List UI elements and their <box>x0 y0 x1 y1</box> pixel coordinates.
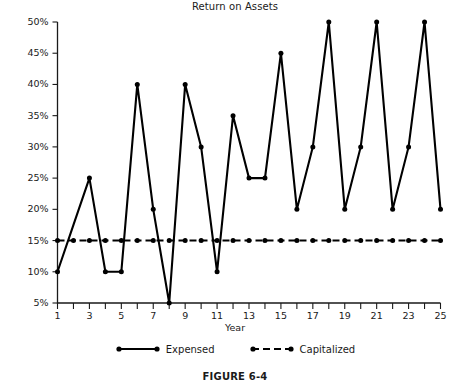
legend-swatch-solid-line <box>115 343 161 355</box>
y-axis-tick-label: 10% <box>0 266 49 277</box>
x-axis-tick-label: 7 <box>139 310 167 321</box>
data-point-marker <box>438 207 443 212</box>
figure-caption: FIGURE 6-4 <box>0 371 470 382</box>
data-point-marker <box>135 82 140 87</box>
data-point-marker <box>55 269 60 274</box>
data-point-marker <box>167 238 172 243</box>
x-axis-tick-label: 23 <box>395 310 423 321</box>
data-point-marker <box>262 176 267 181</box>
x-axis-tick-label: 19 <box>331 310 359 321</box>
x-axis-tick-label: 13 <box>235 310 263 321</box>
data-point-marker <box>390 207 395 212</box>
data-point-marker <box>103 238 108 243</box>
data-point-marker <box>215 238 220 243</box>
data-point-marker <box>374 20 379 25</box>
y-axis-tick-label: 35% <box>0 110 49 121</box>
data-point-marker <box>406 238 411 243</box>
figure-container: Return on Assets 5%10%15%20%25%30%35%40%… <box>0 0 470 392</box>
data-point-marker <box>422 238 427 243</box>
chart-legend: Expensed Capitalized <box>0 343 470 355</box>
data-point-marker <box>199 238 204 243</box>
data-point-marker <box>294 207 299 212</box>
x-axis-tick-label: 15 <box>267 310 295 321</box>
x-axis-tick-label: 5 <box>107 310 135 321</box>
data-point-marker <box>135 238 140 243</box>
data-point-marker <box>358 238 363 243</box>
data-point-marker <box>55 238 60 243</box>
data-point-marker <box>183 238 188 243</box>
data-point-marker <box>342 238 347 243</box>
data-point-marker <box>326 20 331 25</box>
y-axis-tick-label: 15% <box>0 235 49 246</box>
data-point-marker <box>119 269 124 274</box>
data-point-marker <box>358 144 363 149</box>
data-point-marker <box>278 51 283 56</box>
x-axis-tick-label: 17 <box>299 310 327 321</box>
data-point-marker <box>199 144 204 149</box>
data-point-marker <box>167 301 172 306</box>
data-point-marker <box>310 238 315 243</box>
data-point-marker <box>438 238 443 243</box>
data-point-marker <box>215 269 220 274</box>
data-point-marker <box>231 238 236 243</box>
legend-item-expensed: Expensed <box>115 343 215 355</box>
data-point-marker <box>247 176 252 181</box>
data-point-marker <box>326 238 331 243</box>
x-axis-tick-label: 1 <box>44 310 72 321</box>
y-axis-tick-label: 40% <box>0 78 49 89</box>
chart-plot-area <box>0 0 470 392</box>
y-axis-tick-label: 30% <box>0 141 49 152</box>
y-axis-tick-label: 45% <box>0 47 49 58</box>
data-point-marker <box>183 82 188 87</box>
data-point-marker <box>374 238 379 243</box>
legend-label-capitalized: Capitalized <box>300 344 356 355</box>
data-point-marker <box>119 238 124 243</box>
data-point-marker <box>294 238 299 243</box>
data-point-marker <box>87 238 92 243</box>
x-axis-tick-label: 21 <box>363 310 391 321</box>
data-point-marker <box>390 238 395 243</box>
y-axis-tick-label: 5% <box>0 297 49 308</box>
data-point-marker <box>87 176 92 181</box>
y-axis-tick-label: 25% <box>0 172 49 183</box>
x-axis-tick-label: 3 <box>75 310 103 321</box>
data-point-marker <box>71 238 76 243</box>
legend-label-expensed: Expensed <box>166 344 215 355</box>
data-point-marker <box>151 238 156 243</box>
data-point-marker <box>406 144 411 149</box>
y-axis-tick-label: 50% <box>0 16 49 27</box>
x-axis-tick-label: 9 <box>171 310 199 321</box>
data-point-marker <box>262 238 267 243</box>
data-point-marker <box>310 144 315 149</box>
chart-axes <box>58 22 441 303</box>
data-point-marker <box>247 238 252 243</box>
legend-swatch-dashed-line <box>249 343 295 355</box>
data-point-marker <box>422 20 427 25</box>
y-axis-tick-label: 20% <box>0 203 49 214</box>
x-axis-tick-label: 11 <box>203 310 231 321</box>
x-axis-title: Year <box>0 322 470 333</box>
data-point-marker <box>278 238 283 243</box>
data-point-marker <box>103 269 108 274</box>
data-point-marker <box>151 207 156 212</box>
legend-item-capitalized: Capitalized <box>249 343 356 355</box>
x-axis-tick-label: 25 <box>427 310 455 321</box>
data-point-marker <box>231 113 236 118</box>
series-line-expensed <box>58 22 441 303</box>
data-point-marker <box>342 207 347 212</box>
